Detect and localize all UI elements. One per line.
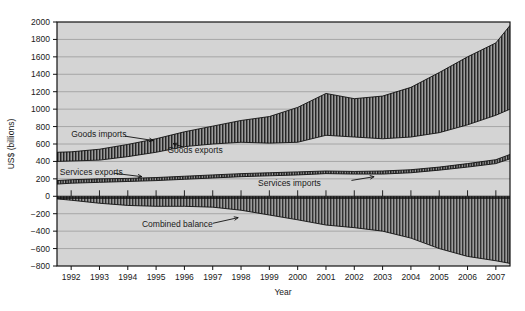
- x-tick-label: 2007: [486, 272, 505, 282]
- y-tick-label: 200: [36, 174, 50, 184]
- y-axis-title: US$ (billions): [6, 119, 16, 170]
- annotation-combined-balance: Combined balance: [142, 219, 213, 229]
- x-tick-label: 1994: [118, 272, 137, 282]
- x-tick-label: 1993: [90, 272, 109, 282]
- y-tick-label: 600: [36, 139, 50, 149]
- annotation-services-imports: Services imports: [258, 178, 321, 188]
- x-tick-label: 1998: [232, 272, 251, 282]
- x-tick-label: 1992: [62, 272, 81, 282]
- x-tick-label: 1996: [175, 272, 194, 282]
- x-tick-label: 1999: [260, 272, 279, 282]
- y-tick-label: 1600: [31, 52, 50, 62]
- y-tick-label: 400: [36, 156, 50, 166]
- x-tick-label: 1997: [203, 272, 222, 282]
- x-tick-label: 2002: [345, 272, 364, 282]
- y-tick-label: 0: [45, 191, 50, 201]
- chart-figure: 2000180016001400120010008006004002000−20…: [0, 0, 525, 311]
- y-tick-label: 800: [36, 122, 50, 132]
- annotation-services-exports: Services exports: [60, 167, 123, 177]
- y-tick-label: −800: [31, 261, 50, 271]
- y-tick-label: 1400: [31, 69, 50, 79]
- y-tick-label: 1000: [31, 104, 50, 114]
- x-tick-label: 2000: [288, 272, 307, 282]
- x-tick-label: 2005: [430, 272, 449, 282]
- trade-balance-chart: 2000180016001400120010008006004002000−20…: [0, 0, 525, 311]
- x-tick-label: 2004: [401, 272, 420, 282]
- y-tick-label: 1800: [31, 34, 50, 44]
- annotation-goods-imports: Goods imports: [71, 129, 126, 139]
- y-tick-label: −200: [31, 209, 50, 219]
- y-tick-label: 2000: [31, 17, 50, 27]
- x-axis-title: Year: [274, 287, 291, 297]
- y-tick-label: −600: [31, 244, 50, 254]
- y-tick-label: −400: [31, 226, 50, 236]
- x-tick-label: 2003: [373, 272, 392, 282]
- x-tick-label: 2001: [317, 272, 336, 282]
- y-tick-label: 1200: [31, 87, 50, 97]
- x-tick-label: 2006: [458, 272, 477, 282]
- x-tick-label: 1995: [147, 272, 166, 282]
